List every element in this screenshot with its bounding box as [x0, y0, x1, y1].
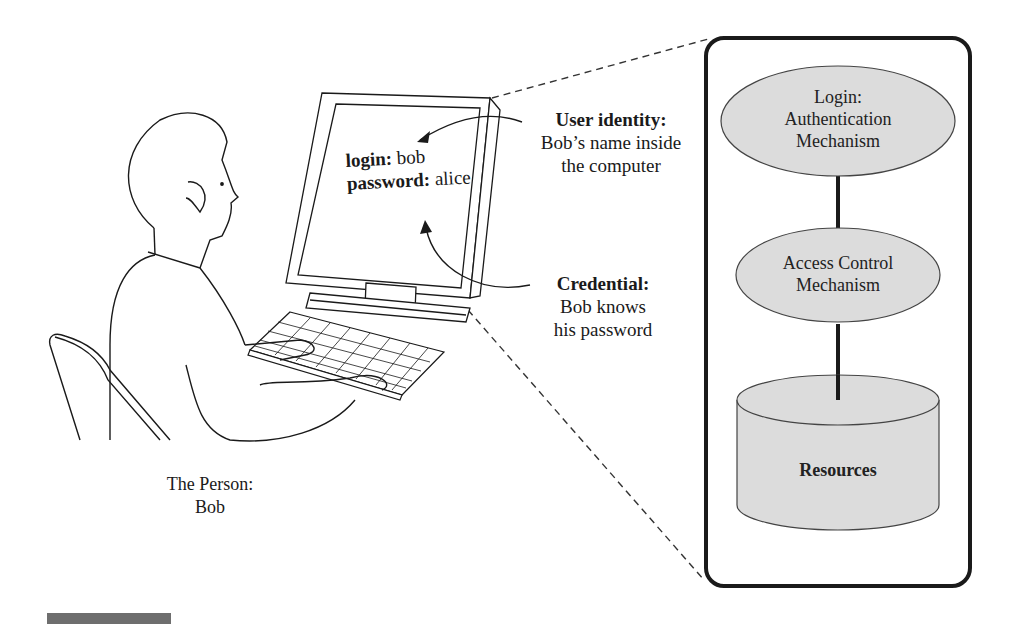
node-line: Mechanism [738, 274, 938, 296]
resources-text: Resources [738, 460, 938, 481]
person-caption-line1: The Person: [130, 473, 290, 496]
password-label: password: [346, 169, 430, 194]
figure-label-bar [47, 613, 171, 624]
node-line: Mechanism [738, 130, 938, 152]
credential-title: Credential: [557, 273, 650, 294]
person-caption-line2: Bob [130, 496, 290, 519]
user-identity-line1: Bob’s name inside [528, 131, 694, 154]
credential-label: Credential: Bob knows his password [528, 272, 678, 341]
access-control-text: Access Control Mechanism [738, 252, 938, 296]
user-identity-title: User identity: [556, 109, 667, 130]
user-identity-line2: the computer [528, 154, 694, 177]
screen-login-form: login: bob password: alice [345, 143, 471, 195]
node-line: Resources [799, 460, 877, 480]
node-line: Login: [738, 86, 938, 108]
keyboard-illustration [248, 312, 444, 400]
node-line: Access Control [738, 252, 938, 274]
login-authentication-text: Login: Authentication Mechanism [738, 86, 938, 152]
node-line: Authentication [738, 108, 938, 130]
user-identity-label: User identity: Bob’s name inside the com… [528, 108, 694, 177]
login-value: bob [396, 146, 426, 168]
password-value: alice [434, 166, 471, 189]
monitor-illustration [286, 93, 500, 322]
login-label: login: [345, 148, 392, 171]
credential-line1: Bob knows [528, 295, 678, 318]
person-caption: The Person: Bob [130, 473, 290, 519]
credential-line2: his password [528, 318, 678, 341]
